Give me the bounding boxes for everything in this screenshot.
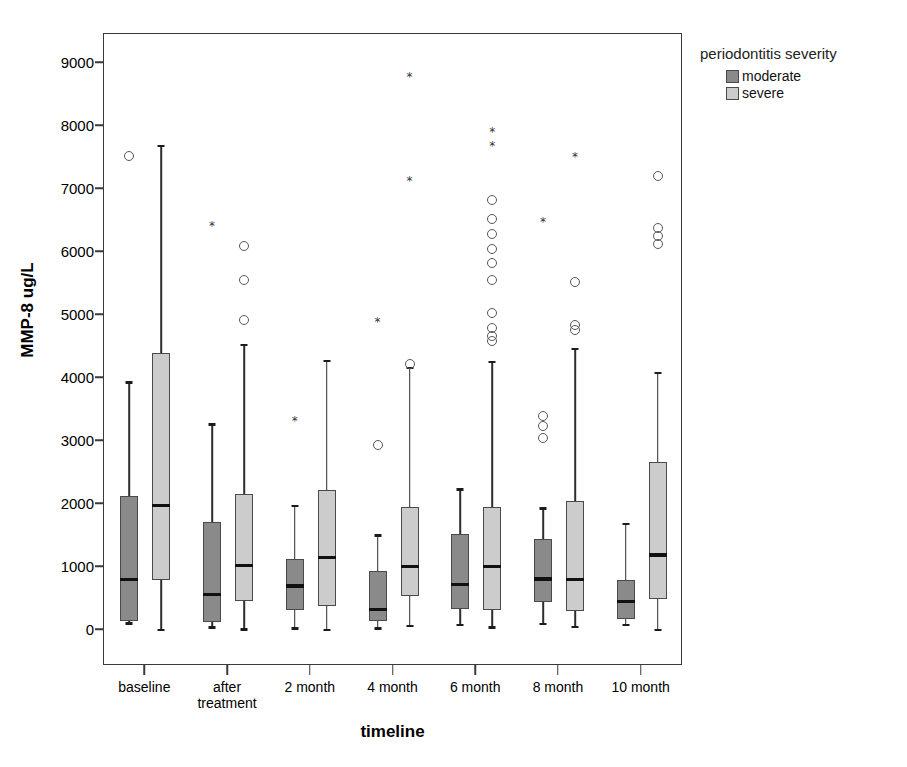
legend-label-severe: severe <box>742 85 784 101</box>
legend-item-severe[interactable]: severe <box>726 85 900 101</box>
y-axis-title: MMP-8 ug/L <box>18 190 38 430</box>
outlier-extreme-star-icon: * <box>489 128 495 136</box>
outlier-circle-icon <box>570 325 580 335</box>
box-iqr <box>203 522 221 623</box>
y-tick-mark <box>95 565 104 567</box>
outlier-circle-icon <box>538 411 548 421</box>
y-tick-label: 7000 <box>61 180 94 197</box>
outlier-extreme-star-icon: * <box>489 142 495 150</box>
whisker-cap-upper <box>571 348 578 350</box>
box-iqr <box>120 496 138 620</box>
outlier-circle-icon <box>487 195 497 205</box>
whisker-cap-upper <box>374 534 381 536</box>
box-iqr <box>318 490 336 607</box>
box-iqr <box>451 534 469 608</box>
x-tick-mark <box>640 665 642 675</box>
median-line <box>286 584 304 587</box>
box-iqr <box>534 539 552 602</box>
y-tick-mark <box>95 313 104 315</box>
whisker-cap-lower <box>406 625 413 627</box>
outlier-extreme-star-icon: * <box>209 222 215 230</box>
box-iqr <box>401 507 419 596</box>
outlier-circle-icon <box>487 214 497 224</box>
x-tick-mark <box>309 665 311 675</box>
legend-label-moderate: moderate <box>742 68 801 84</box>
outlier-circle-icon <box>653 239 663 249</box>
x-tick-mark <box>392 665 394 675</box>
box-iqr <box>483 507 501 610</box>
y-tick-mark <box>95 124 104 126</box>
plot-inner: ********* <box>104 34 681 664</box>
outlier-circle-icon <box>239 275 249 285</box>
median-line <box>534 577 552 580</box>
y-tick-mark <box>95 61 104 63</box>
x-tick-mark <box>474 665 476 675</box>
outlier-circle-icon <box>570 277 580 287</box>
box-iqr <box>235 494 253 601</box>
whisker-cap-upper <box>209 423 216 425</box>
y-tick-mark <box>95 376 104 378</box>
box-iqr <box>369 571 387 621</box>
chart-root: 0100020003000400050006000700080009000 MM… <box>0 0 907 767</box>
whisker-cap-lower <box>291 627 298 629</box>
y-tick-label: 2000 <box>61 495 94 512</box>
y-tick-mark <box>95 187 104 189</box>
legend-item-moderate[interactable]: moderate <box>726 68 900 84</box>
whisker-cap-lower <box>539 623 546 625</box>
legend: periodontitis severity moderate severe <box>700 45 900 102</box>
outlier-circle-icon <box>124 151 134 161</box>
y-tick-label: 6000 <box>61 243 94 260</box>
outlier-circle-icon <box>373 440 383 450</box>
whisker-cap-lower <box>571 626 578 628</box>
x-axis-title: timeline <box>103 722 682 742</box>
whisker-cap-upper <box>457 488 464 490</box>
whisker-cap-lower <box>126 622 133 624</box>
median-line <box>566 578 584 581</box>
median-line <box>451 583 469 586</box>
outlier-circle-icon <box>487 229 497 239</box>
y-tick-label: 9000 <box>61 54 94 71</box>
x-tick-mark <box>557 665 559 675</box>
outlier-circle-icon <box>487 244 497 254</box>
y-tick-label: 5000 <box>61 306 94 323</box>
median-line <box>318 556 336 559</box>
legend-swatch-moderate-icon <box>726 70 739 83</box>
y-tick-label: 8000 <box>61 117 94 134</box>
whisker-cap-lower <box>457 624 464 626</box>
outlier-extreme-star-icon: * <box>407 73 413 81</box>
plot-area: ********* <box>103 33 682 665</box>
median-line <box>401 565 419 568</box>
outlier-extreme-star-icon: * <box>540 218 546 226</box>
whisker-cap-lower <box>622 624 629 626</box>
outlier-circle-icon <box>538 421 548 431</box>
y-tick-mark <box>95 628 104 630</box>
outlier-circle-icon <box>487 308 497 318</box>
outlier-extreme-star-icon: * <box>292 417 298 425</box>
box-iqr <box>566 501 584 611</box>
outlier-extreme-star-icon: * <box>572 153 578 161</box>
whisker-cap-upper <box>622 523 629 525</box>
y-tick-label: 1000 <box>61 558 94 575</box>
legend-swatch-severe-icon <box>726 87 739 100</box>
x-tick-mark <box>144 665 146 675</box>
outlier-circle-icon <box>487 275 497 285</box>
outlier-circle-icon <box>239 241 249 251</box>
median-line <box>369 608 387 611</box>
whisker-cap-upper <box>291 505 298 507</box>
whisker-cap-lower <box>654 629 661 631</box>
box-iqr <box>649 462 667 599</box>
median-line <box>617 600 635 603</box>
outlier-circle-icon <box>653 171 663 181</box>
median-line <box>483 565 501 568</box>
outlier-extreme-star-icon: * <box>407 177 413 185</box>
whisker-cap-lower <box>209 626 216 628</box>
y-tick-label: 4000 <box>61 369 94 386</box>
median-line <box>203 593 221 596</box>
x-tick-label: 10 month <box>581 679 701 695</box>
outlier-circle-icon <box>487 258 497 268</box>
median-line <box>152 504 170 507</box>
y-tick-label: 0 <box>86 621 94 638</box>
median-line <box>235 564 253 567</box>
outlier-circle-icon <box>538 433 548 443</box>
outlier-circle-icon <box>239 315 249 325</box>
